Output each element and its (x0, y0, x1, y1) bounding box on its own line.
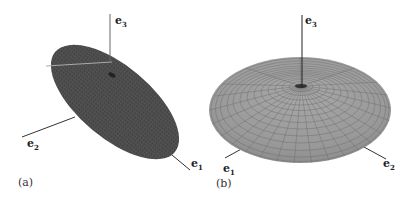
panel-a: e3 e2 e1 (a) (18, 14, 203, 189)
axis-e1-line (172, 155, 190, 170)
panel-a-caption: (a) (18, 176, 33, 189)
panel-b: e3 e1 e2 (b) (209, 14, 395, 190)
axis-e2-line (22, 117, 75, 137)
figure: e3 e2 e1 (a) (0, 0, 411, 199)
axis-e3-label: e3 (115, 14, 127, 29)
axis-e3-label: e3 (305, 14, 317, 29)
figure-canvas: e3 e2 e1 (a) (0, 0, 411, 199)
spheroid-pole (295, 84, 307, 88)
axis-e1-label: e1 (191, 157, 203, 172)
axis-e2-label: e2 (27, 137, 39, 152)
axis-e1-label: e1 (223, 162, 235, 177)
axis-e2-label: e2 (383, 157, 395, 172)
panel-b-caption: (b) (216, 177, 232, 190)
